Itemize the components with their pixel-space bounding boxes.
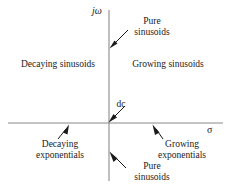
region-label-line1: Pure — [125, 16, 179, 27]
region-label-growing-sinusoids: Growing sinusoids — [122, 59, 214, 70]
vertical-axis-label: jω — [92, 5, 102, 16]
region-label-line2: exponentials — [142, 150, 222, 161]
region-label-line1: Decaying — [20, 139, 100, 150]
region-label-pure-sinusoids-top: Pure sinusoids — [125, 16, 179, 38]
arrow-growing-exponentials — [153, 125, 164, 140]
region-label-pure-sinusoids-bottom: Pure sinusoids — [122, 161, 182, 183]
region-label-line2: sinusoids — [122, 172, 182, 183]
region-label-line2: sinusoids — [125, 27, 179, 38]
region-label-line2: exponentials — [20, 150, 100, 161]
region-label-line1: Growing sinusoids — [122, 59, 214, 70]
region-label-line1: dc — [112, 99, 130, 110]
region-label-line1: Decaying sinusoids — [12, 59, 104, 70]
arrow-decaying-exponentials — [58, 125, 69, 140]
region-label-dc: dc — [112, 99, 130, 110]
region-label-line1: Pure — [122, 161, 182, 172]
region-label-decaying-exponentials: Decaying exponentials — [20, 139, 100, 161]
s-plane-figure: jω σ Pure sinusoids Decaying sinusoids G… — [0, 0, 231, 188]
region-label-decaying-sinusoids: Decaying sinusoids — [12, 59, 104, 70]
horizontal-axis-label: σ — [207, 124, 212, 135]
region-label-line1: Growing — [142, 139, 222, 150]
region-label-growing-exponentials: Growing exponentials — [142, 139, 222, 161]
